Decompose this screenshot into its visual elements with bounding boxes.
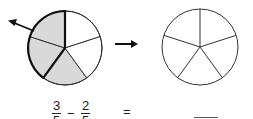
minus-operator: −	[67, 106, 75, 119]
fraction-2-denominator: 5	[81, 114, 90, 119]
transition-arrow-icon	[115, 40, 138, 48]
fraction-1-denominator: 5	[52, 114, 61, 119]
fraction-2: 2 5	[81, 99, 90, 119]
fraction-1-numerator: 3	[52, 99, 61, 113]
answer-blank[interactable]	[194, 117, 218, 118]
fraction-1: 3 5	[52, 99, 61, 119]
equals-sign: =	[123, 104, 131, 119]
right-fraction-circle	[162, 9, 238, 85]
fraction-diagram	[0, 0, 253, 119]
fraction-2-numerator: 2	[81, 99, 90, 113]
remove-arrow-icon	[8, 19, 34, 31]
left-fraction-circle	[28, 11, 102, 85]
